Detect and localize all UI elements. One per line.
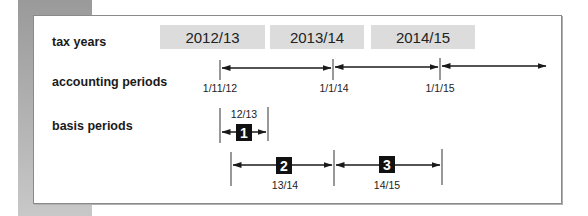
accounting-date-1-1-15: 1/1/15 bbox=[425, 82, 454, 94]
basis-period-1-label: 12/13 bbox=[231, 108, 257, 120]
basis-period-3-label: 14/15 bbox=[374, 179, 400, 191]
basis-period-1-badge: 1 bbox=[236, 124, 252, 141]
basis-period-2-badge: 2 bbox=[276, 157, 292, 174]
accounting-date-1-11-12: 1/11/12 bbox=[203, 82, 237, 94]
accounting-date-1-1-14: 1/1/14 bbox=[319, 82, 348, 94]
basis-period-3-badge: 3 bbox=[379, 156, 395, 173]
basis-period-2-label: 13/14 bbox=[272, 179, 298, 191]
